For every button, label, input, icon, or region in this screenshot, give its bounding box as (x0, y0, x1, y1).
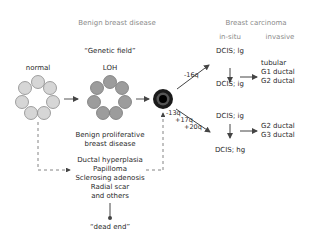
invasive-g3-ductal: G3 ductal (261, 131, 295, 140)
in-situ-header: in-situ (219, 33, 241, 41)
dead-end-label: “dead end” (90, 223, 130, 231)
dcis-lower-top: DCIS; ig (216, 112, 244, 120)
dcis-upper-top: DCIS; lg (216, 47, 244, 55)
benign-proliferative-line-2: breast disease (75, 140, 144, 149)
benign-header: Benign breast disease (78, 19, 156, 27)
benign-proliferative-label: Benign proliferative breast disease (75, 131, 144, 149)
invasive-upper-list: tubular G1 ductal G2 ductal (261, 59, 295, 86)
carcinoma-header: Breast carcinoma (225, 19, 286, 27)
invasive-lower-list: G2 ductal G3 ductal (261, 122, 295, 140)
tumor-cell (153, 89, 173, 109)
lesion-radial-scar: Radial scar (75, 183, 144, 192)
loh-cell-cluster (88, 76, 132, 120)
genetic-field-label: “Genetic field” (84, 47, 135, 55)
lesion-sclerosing-adenosis: Sclerosing adenosis (75, 174, 144, 183)
invasive-g1-ductal: G1 ductal (261, 68, 295, 77)
dcis-upper-bottom: DCIS; ig (216, 80, 244, 88)
pathway-upper-label: -16q (184, 71, 199, 79)
normal-cell-cluster (16, 76, 60, 120)
normal-label: normal (26, 64, 51, 72)
invasive-header: invasive (266, 33, 295, 41)
loh-label: LOH (103, 64, 117, 72)
dcis-lower-bottom: DCIS; hg (215, 146, 245, 154)
invasive-tubular: tubular (261, 59, 295, 68)
lesion-ductal-hyperplasia: Ductal hyperplasia (75, 156, 144, 165)
invasive-g2-ductal-lower: G2 ductal (261, 122, 295, 131)
lesion-others: and others (75, 192, 144, 201)
benign-lesion-list: Ductal hyperplasia Papilloma Sclerosing … (75, 156, 144, 201)
benign-proliferative-line-1: Benign proliferative (75, 131, 144, 140)
invasive-g2-ductal: G2 ductal (261, 77, 295, 86)
lesion-papilloma: Papilloma (75, 165, 144, 174)
diagram-graphics (0, 0, 311, 236)
pathway-lower-label-3: +20q (184, 124, 202, 131)
